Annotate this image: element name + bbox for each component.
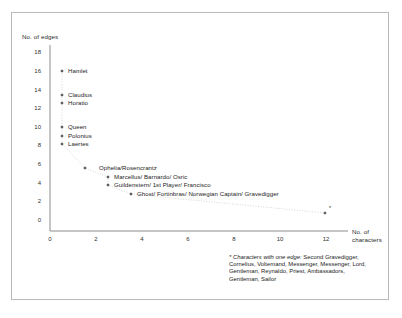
point-label-hamlet: Hamlet — [68, 67, 88, 74]
data-point-horatio[interactable] — [60, 101, 64, 105]
x-tick-8: 8 — [226, 236, 242, 242]
data-point-hamlet[interactable] — [60, 69, 64, 73]
data-point-claudius[interactable] — [60, 93, 64, 97]
point-label-guildenstern-group: Guildenstern/ 1st Player/ Francisco — [114, 181, 211, 188]
y-tick-6: 6 — [27, 161, 41, 167]
data-point-laertes[interactable] — [60, 142, 64, 146]
point-label-marcellus-group: Marcellus/ Barnardo/ Osric — [114, 173, 187, 180]
y-tick-8: 8 — [27, 142, 41, 148]
y-tick-0: 0 — [27, 217, 41, 223]
x-tick-4: 4 — [134, 236, 150, 242]
data-point-ghost-group[interactable] — [129, 192, 133, 196]
y-tick-18: 18 — [27, 49, 41, 55]
y-tick-12: 12 — [27, 105, 41, 111]
data-point-marcellus-group[interactable] — [106, 175, 110, 179]
footnote-asterisk: * — [229, 254, 231, 260]
y-tick-2: 2 — [27, 198, 41, 204]
footnote-marker-asterisk: * — [329, 205, 331, 211]
data-point-one-edge-characters[interactable] — [323, 211, 327, 215]
x-tick-10: 10 — [272, 236, 288, 242]
point-label-queen: Queen — [68, 123, 87, 130]
y-tick-10: 10 — [27, 124, 41, 130]
data-point-polonius[interactable] — [60, 134, 64, 138]
x-tick-2: 2 — [88, 236, 104, 242]
x-tick-0: 0 — [42, 236, 58, 242]
point-label-polonius: Polonius — [68, 132, 92, 139]
point-label-claudius: Claudius — [68, 91, 92, 98]
point-label-horatio: Horatio — [68, 99, 88, 106]
data-point-guildenstern-group[interactable] — [106, 183, 110, 187]
point-label-ghost-group: Ghost/ Fortinbras/ Norwegian Captain/ Gr… — [137, 190, 279, 197]
x-tick-6: 6 — [180, 236, 196, 242]
point-label-laertes: Laertes — [68, 140, 89, 147]
y-tick-16: 16 — [27, 68, 41, 74]
footnote-lead-text: Characters with one edge: — [233, 254, 302, 260]
footnote-text: * Characters with one edge: Second Grave… — [229, 254, 374, 283]
y-tick-4: 4 — [27, 180, 41, 186]
x-tick-12: 12 — [318, 236, 334, 242]
point-label-ophelia-rosencrantz: Ophelia/Rosencrantz — [99, 164, 157, 171]
data-point-queen[interactable] — [60, 125, 64, 129]
y-tick-14: 14 — [27, 87, 41, 93]
footnote-lead: * Characters with one edge: — [229, 254, 302, 260]
data-point-ophelia-rosencrantz[interactable] — [83, 166, 87, 170]
